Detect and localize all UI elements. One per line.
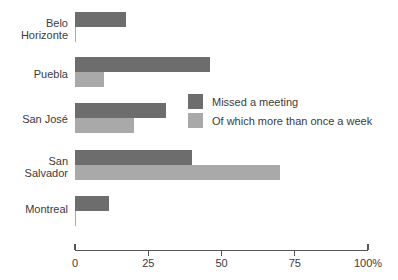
legend-swatch-icon-weekly: [188, 113, 203, 128]
x-axis-tick-25: [148, 250, 149, 256]
bar-missed-montreal: [75, 196, 109, 211]
x-axis-tick-label-0: 0: [72, 257, 78, 269]
x-axis-tick-label-100pct: 100%: [354, 257, 382, 269]
x-axis-tick-50: [221, 250, 222, 256]
category-label-puebla: Puebla: [0, 68, 68, 80]
bar-weekly-san-salvador: [75, 165, 280, 180]
x-axis-tick-100pct: [367, 244, 368, 250]
bar-chart: Belo Horizonte Puebla San José San Salva…: [0, 0, 398, 280]
legend-swatch-icon-missed: [188, 94, 203, 109]
bar-weekly-belo-horizonte: [75, 27, 76, 42]
x-axis-tick-label-50: 50: [215, 257, 227, 269]
legend: Missed a meeting Of which more than once…: [188, 93, 372, 131]
bar-missed-san-salvador: [75, 150, 192, 165]
category-label-belo-horizonte: Belo Horizonte: [0, 17, 68, 41]
category-label-montreal: Montreal: [0, 203, 68, 215]
bar-missed-puebla: [75, 57, 210, 72]
x-axis-tick-label-75: 75: [289, 257, 301, 269]
category-label-san-salvador: San Salvador: [0, 155, 68, 179]
legend-label-weekly: Of which more than once a week: [212, 115, 372, 127]
bar-weekly-san-jose: [75, 118, 134, 133]
x-axis-tick-75: [294, 250, 295, 256]
legend-label-missed: Missed a meeting: [212, 96, 298, 108]
x-axis-tick-label-25: 25: [142, 257, 154, 269]
x-axis-tick-0: [74, 244, 75, 250]
bar-weekly-montreal: [75, 211, 76, 226]
bar-missed-san-jose: [75, 103, 166, 118]
legend-item-more-than-once-a-week: Of which more than once a week: [188, 112, 372, 129]
category-label-san-jose: San José: [0, 113, 68, 125]
legend-item-missed-a-meeting: Missed a meeting: [188, 93, 372, 110]
bar-weekly-puebla: [75, 72, 104, 87]
bar-missed-belo-horizonte: [75, 12, 126, 27]
